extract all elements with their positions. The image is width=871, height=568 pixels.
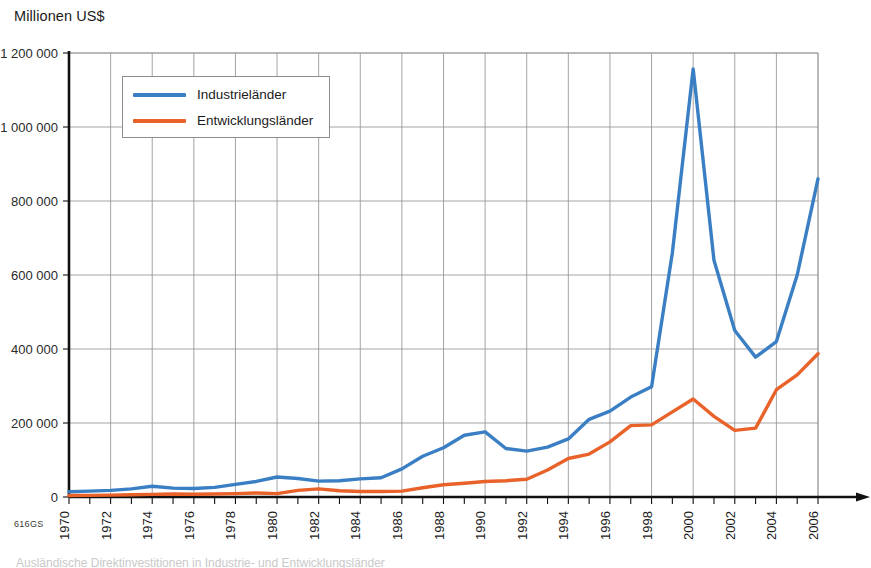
svg-text:800 000: 800 000 — [11, 194, 58, 209]
svg-text:2000: 2000 — [681, 511, 696, 540]
svg-text:1 000 000: 1 000 000 — [0, 120, 58, 135]
legend-label-entwicklungslaender: Entwicklungsländer — [197, 114, 313, 128]
svg-text:1984: 1984 — [348, 511, 363, 540]
svg-text:2002: 2002 — [723, 511, 738, 540]
line-swatch-blue — [133, 93, 186, 97]
svg-text:200 000: 200 000 — [11, 416, 58, 431]
source-code-label: 616GS — [14, 519, 44, 529]
legend-item-entwicklungslaender: Entwicklungsländer — [133, 110, 313, 132]
svg-text:0: 0 — [51, 490, 58, 505]
svg-text:600 000: 600 000 — [11, 268, 58, 283]
line-swatch-orange — [133, 119, 186, 123]
svg-text:1988: 1988 — [432, 511, 447, 540]
chart-legend: Industrieländer Entwicklungsländer — [122, 76, 330, 138]
legend-label-industrielaender: Industrieländer — [197, 88, 286, 102]
svg-text:1992: 1992 — [515, 511, 530, 540]
svg-text:1998: 1998 — [640, 511, 655, 540]
svg-text:1996: 1996 — [598, 511, 613, 540]
svg-text:1976: 1976 — [182, 511, 197, 540]
svg-text:1986: 1986 — [390, 511, 405, 540]
y-axis-tick-labels: 0200 000400 000600 000800 0001 000 0001 … — [0, 46, 58, 505]
legend-item-industrielaender: Industrieländer — [133, 84, 286, 106]
svg-text:1980: 1980 — [265, 511, 280, 540]
x-axis-tick-labels: 1970197219741976197819801982198419861988… — [57, 511, 821, 540]
svg-text:1974: 1974 — [140, 511, 155, 540]
svg-text:1994: 1994 — [556, 511, 571, 540]
figure-root: Millionen US$ 0200 000400 000600 000800 … — [0, 0, 871, 568]
svg-text:2006: 2006 — [806, 511, 821, 540]
svg-text:1978: 1978 — [223, 511, 238, 540]
svg-text:1 200 000: 1 200 000 — [0, 46, 58, 61]
svg-text:1970: 1970 — [57, 511, 72, 540]
y-axis-line — [63, 51, 69, 497]
svg-text:2004: 2004 — [764, 511, 779, 540]
svg-text:400 000: 400 000 — [11, 342, 58, 357]
svg-text:1990: 1990 — [473, 511, 488, 540]
svg-text:1972: 1972 — [99, 511, 114, 540]
bottom-caption: Ausländische Direktinvestitionen in Indu… — [16, 556, 856, 568]
svg-text:1982: 1982 — [307, 511, 322, 540]
